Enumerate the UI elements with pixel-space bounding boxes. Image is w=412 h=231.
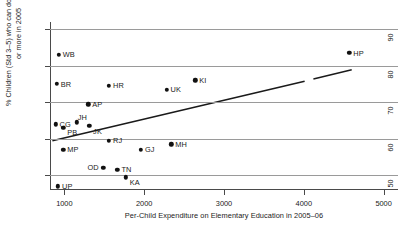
data-point-label-ki: KI [199,76,206,85]
data-point-label-mp: MP [67,145,78,154]
y-tick-label-80: 80 [386,70,395,78]
y-tick-80 [45,66,50,67]
x-tick-3000 [224,190,225,195]
data-point-label-hr: HR [113,81,124,90]
gridline-y-60 [50,139,398,140]
y-tick-label-60: 60 [386,143,395,151]
data-point-label-pb: PB [67,128,77,137]
y-tick-label-50: 50 [386,180,395,188]
gridline-y-50 [50,175,398,176]
x-tick-label-2000: 2000 [136,199,152,208]
x-tick-label-3000: 3000 [216,199,232,208]
data-point-label-rj: RJ [113,136,122,145]
x-tick-5000 [384,190,385,195]
data-point-label-mh: MH [175,140,187,149]
data-point-label-tn: TN [121,165,131,174]
y-tick-90 [45,29,50,30]
data-point-label-od: OD [87,163,98,172]
data-point-label-gj: GJ [145,145,155,154]
x-tick-4000 [304,190,305,195]
gridline-y-90 [50,29,398,30]
data-point-label-hp: HP [353,49,363,58]
y-axis-title-container: % Children (Std 3–5) who can do subtract… [0,0,24,190]
scatter-chart-figure: % Children (Std 3–5) who can do subtract… [0,0,412,231]
y-axis-title: % Children (Std 3–5) who can do subtract… [4,0,23,119]
x-axis-title: Per-Child Expenditure on Elementary Educ… [50,211,398,220]
y-tick-70 [45,102,50,103]
data-point-label-wb: WB [63,50,75,59]
data-point-label-br: BR [61,80,71,89]
gridline-y-80 [50,66,398,67]
x-tick-label-1000: 1000 [56,199,72,208]
y-tick-label-90: 90 [386,34,395,42]
data-point-label-jk: JK [93,127,102,136]
data-point-label-ka: KA [130,178,140,187]
data-point-label-up: UP [62,182,72,191]
y-tick-label-70: 70 [386,107,395,115]
y-tick-50 [45,175,50,176]
x-tick-2000 [144,190,145,195]
data-point-label-uk: UK [171,85,181,94]
x-tick-label-5000: 5000 [375,199,391,208]
plot-area: 506070809010002000300040005000WBBRHRUKKI… [50,22,398,190]
data-point-label-jh: JH [78,113,87,122]
data-point-label-ap: AP [92,100,102,109]
x-tick-label-4000: 4000 [296,199,312,208]
fit-line-segment-1 [313,70,351,79]
y-tick-60 [45,139,50,140]
